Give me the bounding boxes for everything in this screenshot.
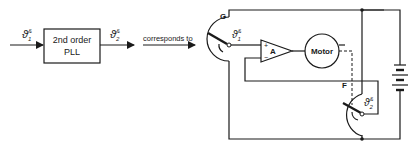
corresponds-to-label: corresponds to — [143, 34, 193, 43]
mechanical-link — [339, 51, 352, 105]
amplifier: + − A — [261, 40, 292, 62]
input-signal-label: ϑ&1 — [22, 28, 32, 42]
generator-potentiometer — [207, 17, 231, 61]
follower-potentiometer — [343, 94, 364, 136]
wiring — [229, 10, 400, 139]
amp-plus-sign: + — [264, 42, 268, 49]
pot1-signal-label: ϑ&1 — [232, 28, 242, 42]
pll-analogy-diagram: ϑ&1 2nd order PLL ϑ&2 corresponds to G ϑ… — [0, 0, 420, 156]
generator-label: G — [220, 12, 226, 21]
follower-label: F — [342, 81, 347, 90]
junction-bottom — [360, 137, 364, 141]
battery-icon — [392, 63, 408, 95]
pll-block: 2nd order PLL — [44, 29, 100, 63]
motor-label: Motor — [311, 47, 333, 56]
junction-top — [360, 8, 364, 12]
amp-minus-sign: − — [264, 54, 268, 61]
motor: Motor — [305, 34, 339, 68]
pll-block-line1: 2nd order — [53, 35, 92, 45]
pot2-signal-label: ϑ&2 — [364, 96, 374, 110]
output-signal-label: ϑ&2 — [110, 28, 120, 42]
pll-block-line2: PLL — [64, 47, 80, 57]
amplifier-label: A — [270, 47, 276, 56]
